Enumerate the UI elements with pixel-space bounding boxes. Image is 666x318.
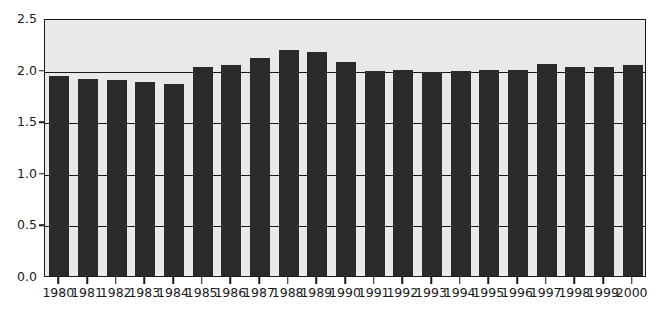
x-tick-mark bbox=[258, 277, 260, 284]
bar bbox=[49, 76, 69, 276]
x-tick-mark bbox=[58, 277, 60, 284]
x-tick-mark bbox=[545, 277, 547, 284]
x-tick-label: 1984 bbox=[157, 287, 189, 300]
bar bbox=[537, 64, 557, 276]
bar bbox=[565, 67, 585, 276]
bars-layer bbox=[45, 20, 645, 276]
x-tick-label: 1989 bbox=[300, 287, 332, 300]
bar bbox=[250, 58, 270, 276]
bar bbox=[422, 72, 442, 276]
bar bbox=[279, 50, 299, 276]
x-axis: 1980198119821983198419851986198719881989… bbox=[44, 277, 646, 318]
plot-area bbox=[44, 19, 646, 277]
x-tick-label: 1991 bbox=[358, 287, 390, 300]
x-tick-label: 1983 bbox=[128, 287, 160, 300]
x-tick-label: 1990 bbox=[329, 287, 361, 300]
bar bbox=[365, 71, 385, 276]
x-tick-mark bbox=[402, 277, 404, 284]
bar bbox=[164, 84, 184, 276]
x-tick-label: 2000 bbox=[616, 287, 648, 300]
bar bbox=[393, 70, 413, 276]
y-tick-label: 1.5 bbox=[17, 116, 37, 129]
x-tick-label: 1998 bbox=[558, 287, 590, 300]
y-tick-label: 2.5 bbox=[17, 13, 37, 26]
bar bbox=[78, 79, 98, 276]
x-tick-label: 1994 bbox=[444, 287, 476, 300]
x-tick-label: 1992 bbox=[386, 287, 418, 300]
bar bbox=[193, 67, 213, 276]
x-tick-mark bbox=[172, 277, 174, 284]
x-tick-label: 1980 bbox=[42, 287, 74, 300]
bar bbox=[451, 71, 471, 276]
y-tick-label: 2.0 bbox=[17, 64, 37, 77]
bar bbox=[307, 52, 327, 276]
x-tick-mark bbox=[602, 277, 604, 284]
bar bbox=[623, 65, 643, 276]
x-tick-mark bbox=[201, 277, 203, 284]
x-tick-mark bbox=[373, 277, 375, 284]
x-tick-label: 1987 bbox=[243, 287, 275, 300]
x-tick-label: 1985 bbox=[186, 287, 218, 300]
x-tick-label: 1982 bbox=[100, 287, 132, 300]
x-tick-mark bbox=[115, 277, 117, 284]
bar bbox=[479, 70, 499, 276]
x-tick-mark bbox=[430, 277, 432, 284]
bar bbox=[221, 65, 241, 276]
x-tick-label: 1981 bbox=[71, 287, 103, 300]
x-tick-label: 1993 bbox=[415, 287, 447, 300]
x-tick-label: 1995 bbox=[472, 287, 504, 300]
x-tick-mark bbox=[459, 277, 461, 284]
x-tick-mark bbox=[316, 277, 318, 284]
y-tick-label: 1.0 bbox=[17, 168, 37, 181]
bar bbox=[135, 82, 155, 276]
x-tick-mark bbox=[516, 277, 518, 284]
bar bbox=[594, 67, 614, 276]
x-tick-mark bbox=[86, 277, 88, 284]
x-tick-mark bbox=[230, 277, 232, 284]
x-tick-mark bbox=[287, 277, 289, 284]
y-axis: 0.00.51.01.52.02.5 bbox=[0, 19, 44, 277]
bar-chart: 0.00.51.01.52.02.5 198019811982198319841… bbox=[0, 0, 666, 318]
x-tick-mark bbox=[631, 277, 633, 284]
x-tick-mark bbox=[344, 277, 346, 284]
x-tick-mark bbox=[144, 277, 146, 284]
x-tick-label: 1988 bbox=[272, 287, 304, 300]
x-tick-label: 1999 bbox=[587, 287, 619, 300]
x-tick-mark bbox=[574, 277, 576, 284]
bar bbox=[508, 70, 528, 276]
x-tick-label: 1997 bbox=[530, 287, 562, 300]
bar bbox=[107, 80, 127, 276]
y-tick-label: 0.5 bbox=[17, 219, 37, 232]
bar bbox=[336, 62, 356, 276]
x-tick-mark bbox=[488, 277, 490, 284]
x-tick-label: 1996 bbox=[501, 287, 533, 300]
y-tick-label: 0.0 bbox=[17, 271, 37, 284]
x-tick-label: 1986 bbox=[214, 287, 246, 300]
